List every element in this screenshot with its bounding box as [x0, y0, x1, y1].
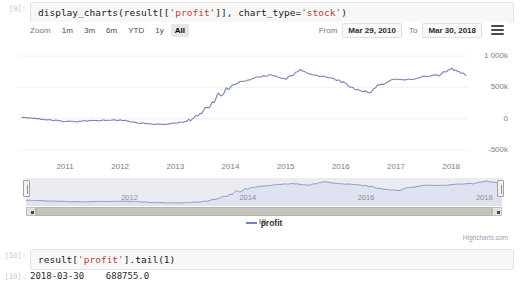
chart-legend[interactable]: profit	[18, 218, 510, 228]
notebook-cell-output-10: [10]: 2018-03-30 688755.0	[0, 270, 520, 284]
highcharts-stock-chart: Zoom 1m 3m 6m YTD 1y All From Mar 29, 20…	[18, 22, 510, 244]
highcharts-credits-link[interactable]: Highcharts.com	[463, 234, 508, 241]
x-axis-tick-label: 2011	[56, 162, 73, 171]
x-axis-tick-label: 2012	[111, 162, 129, 171]
output-prompt-10: [10]:	[0, 270, 30, 284]
notebook-cell-input-9: [9]: display_charts(result[['profit']], …	[0, 2, 520, 23]
navigator[interactable]: 2012201420162018	[26, 178, 502, 206]
legend-line-marker-icon	[246, 222, 257, 224]
x-axis-tick-label: 2016	[332, 162, 350, 171]
range-button-3m[interactable]: 3m	[80, 24, 99, 37]
gridlines	[18, 56, 468, 150]
output-text: 2018-03-30 688755.0	[30, 270, 520, 282]
code-editor-9[interactable]: display_charts(result[['profit']], chart…	[30, 2, 514, 23]
scrollbar-arrow-right-icon[interactable]	[492, 207, 502, 216]
y-axis-tick-label: 0	[504, 114, 508, 123]
x-axis-tick-label: 2018	[442, 162, 460, 171]
navigator-tick-label: 2018	[476, 193, 493, 202]
navigator-tick-label: 2014	[239, 193, 256, 202]
to-date-input[interactable]: Mar 30, 2018	[422, 23, 482, 38]
x-axis-tick-label: 2013	[166, 162, 184, 171]
scrollbar-arrow-left-icon[interactable]	[26, 207, 36, 216]
code-token-suffix: )	[341, 7, 347, 18]
code-token-mid: ]], chart_type=	[215, 7, 301, 18]
navigator-svg	[26, 178, 502, 206]
navigator-tick-label: 2012	[121, 193, 138, 202]
scrollbar-grip-icon	[260, 210, 269, 215]
range-button-1y[interactable]: 1y	[151, 24, 167, 37]
x-axis-tick-label: 2014	[222, 162, 240, 171]
notebook-page: [9]: display_charts(result[['profit']], …	[0, 0, 520, 286]
legend-item-profit[interactable]: profit	[261, 218, 283, 228]
code-token-string-profit: 'profit'	[170, 7, 216, 18]
from-label: From	[319, 26, 338, 35]
cell-prompt-9: [9]:	[0, 2, 30, 16]
y-axis-tick-label: 1 000k	[484, 51, 508, 60]
navigator-scrollbar[interactable]	[26, 207, 502, 216]
range-button-all[interactable]: All	[171, 24, 189, 37]
zoom-button-group: Zoom 1m 3m 6m YTD 1y All	[30, 24, 192, 37]
code-token-mid-2: ].tail(1)	[124, 254, 175, 265]
code-token-string-stock: 'stock'	[301, 7, 341, 18]
to-label: To	[409, 26, 417, 35]
y-axis-tick-label: -500k	[488, 145, 508, 154]
x-axis-tick-label: 2015	[277, 162, 295, 171]
y-axis-tick-label: 500k	[491, 82, 508, 91]
hamburger-menu-icon[interactable]	[491, 25, 504, 36]
x-axis-tick-label: 2017	[387, 162, 405, 171]
navigator-series-area	[26, 181, 502, 206]
navigator-tick-label: 2016	[358, 193, 375, 202]
date-range-group: From Mar 29, 2010 To Mar 30, 2018	[319, 23, 504, 38]
x-axis-labels: 20112012201320142015201620172018	[18, 162, 510, 176]
plot-area: 1 000k500k0-500k	[18, 48, 510, 158]
series-line-profit[interactable]	[22, 68, 466, 124]
notebook-cell-input-10: [10]: result['profit'].tail(1)	[0, 249, 520, 270]
range-button-1m[interactable]: 1m	[58, 24, 77, 37]
zoom-label: Zoom	[30, 26, 51, 35]
cell-prompt-10: [10]:	[0, 249, 30, 263]
range-button-6m[interactable]: 6m	[102, 24, 121, 37]
range-selector-bar: Zoom 1m 3m 6m YTD 1y All From Mar 29, 20…	[18, 22, 510, 42]
code-token-call: display_charts(result[[	[38, 7, 170, 18]
code-token-string-profit-2: 'profit'	[78, 254, 124, 265]
range-button-ytd[interactable]: YTD	[124, 24, 148, 37]
code-editor-10[interactable]: result['profit'].tail(1)	[30, 249, 514, 270]
navigator-handle-left[interactable]	[23, 180, 30, 197]
code-token-call-2: result[	[38, 254, 78, 265]
from-date-input[interactable]: Mar 29, 2010	[342, 23, 402, 38]
plot-svg	[18, 48, 510, 158]
scrollbar-thumb[interactable]	[36, 207, 492, 216]
navigator-handle-right[interactable]	[497, 180, 504, 197]
